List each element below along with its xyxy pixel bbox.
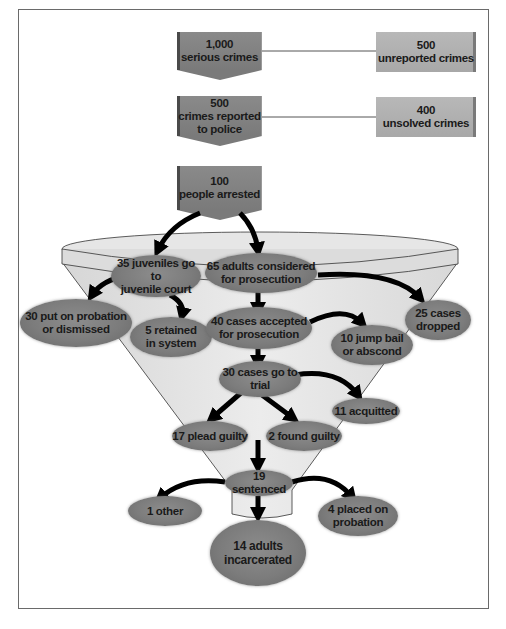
oval-trial: 30 cases go to trial xyxy=(219,361,301,397)
probation-dismissed-line1: 30 put on probation xyxy=(25,310,127,323)
box-crimes-reported: 500 crimes reported to police xyxy=(177,96,262,136)
oval-dropped: 25 cases dropped xyxy=(405,300,471,340)
oval-adults: 65 adults considered for prosecution xyxy=(205,253,317,293)
oval-accepted: 40 cases accepted for prosecution xyxy=(206,307,312,349)
unsolved-label: unsolved crimes xyxy=(383,117,469,130)
juveniles-line1: 35 juveniles go to xyxy=(111,257,201,283)
juveniles-line2: juvenile court xyxy=(121,283,192,296)
incarcerated-line2: incarcerated xyxy=(224,553,292,567)
oval-found-guilty: 2 found guilty xyxy=(266,421,342,451)
chevron-reported xyxy=(177,136,262,146)
dropped-line1: 25 cases xyxy=(415,307,461,320)
oval-juveniles: 35 juveniles go to juvenile court xyxy=(111,255,201,297)
serious-crimes-label: serious crimes xyxy=(181,51,258,64)
acquitted-line1: 11 acquitted xyxy=(335,405,398,418)
sentenced-line1: 19 sentenced xyxy=(225,470,293,496)
reported-label-2: to police xyxy=(197,123,242,136)
oval-jump-bail: 10 jump bail or abscond xyxy=(331,325,413,365)
adults-line1: 65 adults considered xyxy=(207,260,315,273)
other-line1: 1 other xyxy=(147,505,183,518)
adults-line2: for prosecution xyxy=(221,273,301,286)
unreported-count: 500 xyxy=(417,39,435,52)
box-serious-crimes: 1,000 serious crimes xyxy=(177,32,262,70)
arrested-label: people arrested xyxy=(179,188,260,201)
oval-other: 1 other xyxy=(128,496,202,526)
oval-acquitted: 11 acquitted xyxy=(332,398,400,424)
oval-placed-probation: 4 placed on probation xyxy=(318,496,398,536)
placed-probation-line2: probation xyxy=(333,516,383,529)
unreported-label: unreported crimes xyxy=(378,52,474,65)
dropped-line2: dropped xyxy=(416,320,460,333)
arrested-count: 100 xyxy=(210,175,228,188)
box-unreported-crimes: 500 unreported crimes xyxy=(376,32,476,72)
retained-line2: in system xyxy=(146,337,196,350)
box-people-arrested: 100 people arrested xyxy=(177,166,262,210)
chevron-serious xyxy=(177,70,262,80)
retained-line1: 5 retained xyxy=(145,324,196,337)
oval-retained: 5 retained in system xyxy=(130,317,212,357)
plead-guilty-line1: 17 plead guilty xyxy=(172,430,247,443)
incarcerated-line1: 14 adults xyxy=(233,539,282,553)
oval-probation-dismissed: 30 put on probation or dismissed xyxy=(20,299,132,347)
reported-label-1: crimes reported xyxy=(178,110,260,123)
box-unsolved-crimes: 400 unsolved crimes xyxy=(376,97,476,137)
jump-bail-line1: 10 jump bail xyxy=(341,332,404,345)
trial-line2: trial xyxy=(250,379,270,392)
serious-crimes-count: 1,000 xyxy=(206,38,233,51)
reported-count: 500 xyxy=(210,97,228,110)
found-guilty-line1: 2 found guilty xyxy=(268,430,339,443)
jump-bail-line2: or abscond xyxy=(343,345,402,358)
accepted-line1: 40 cases accepted xyxy=(211,315,307,328)
probation-dismissed-line2: or dismissed xyxy=(42,323,109,336)
trial-line1: 30 cases go to xyxy=(222,366,297,379)
accepted-line2: for prosecution xyxy=(219,328,299,341)
placed-probation-line1: 4 placed on xyxy=(328,503,388,516)
oval-incarcerated: 14 adults incarcerated xyxy=(210,520,306,586)
oval-sentenced: 19 sentenced xyxy=(225,470,293,496)
oval-plead-guilty: 17 plead guilty xyxy=(172,421,248,451)
unsolved-count: 400 xyxy=(417,104,435,117)
